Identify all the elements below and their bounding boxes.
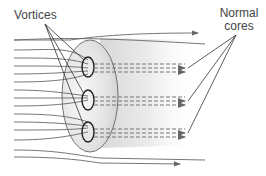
superconductor-vortex-diagram [0, 0, 266, 176]
field-line [14, 150, 205, 160]
leader-line [45, 24, 84, 60]
